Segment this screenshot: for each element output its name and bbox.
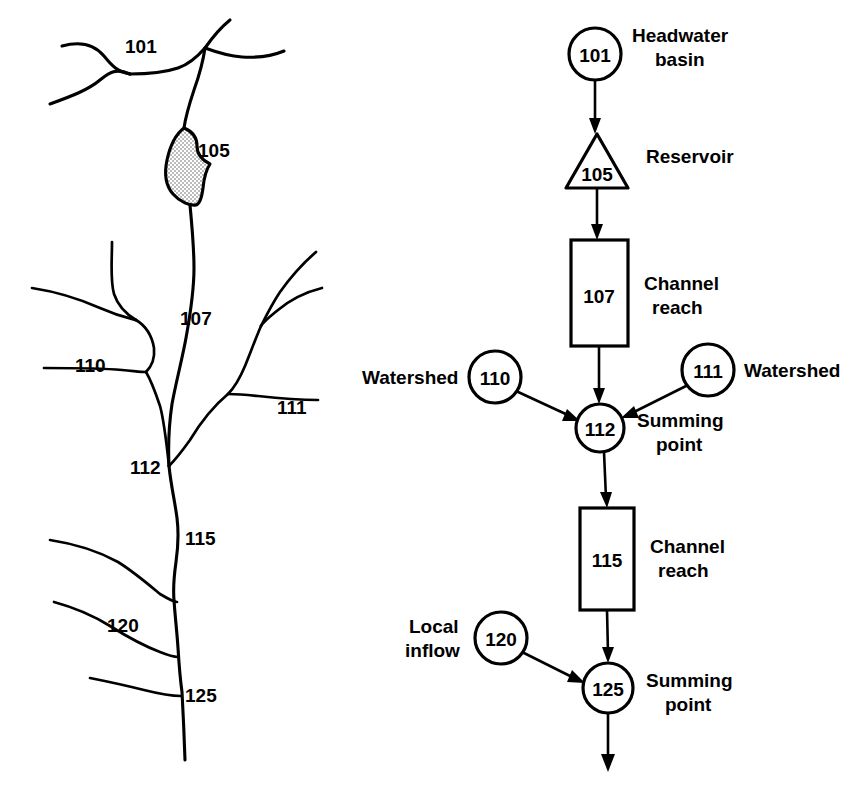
map-reach-label-112: 112 — [130, 457, 161, 478]
map-reach-label-120: 120 — [107, 615, 139, 636]
node-101-number: 101 — [579, 45, 611, 66]
map-reach-label-115: 115 — [185, 528, 216, 549]
node-125-label-line1: Summing — [646, 670, 733, 691]
node-111-label: Watershed — [744, 360, 840, 381]
map-reach-label-111: 111 — [277, 397, 307, 418]
node-101-label-line1: Headwater — [632, 25, 729, 46]
watershed-figure-svg: 101 105 107 110 111 112 115 120 125 — [0, 0, 855, 795]
node-115-number: 115 — [592, 550, 623, 571]
node-120-label-line2: inflow — [405, 640, 460, 661]
node-120-number: 120 — [485, 629, 517, 650]
node-115-label-line1: Channel — [650, 536, 725, 557]
map-reach-label-110: 110 — [75, 355, 106, 376]
node-110-label: Watershed — [362, 367, 458, 388]
map-reach-label-105: 105 — [198, 140, 230, 161]
node-107-label-line1: Channel — [644, 273, 719, 294]
map-reach-label-107: 107 — [180, 308, 212, 329]
node-120-label-line1: Local — [409, 616, 459, 637]
node-101-label-line2: basin — [655, 49, 705, 70]
node-107-label-line2: reach — [652, 297, 703, 318]
map-reach-label-125: 125 — [185, 685, 217, 706]
node-105-label: Reservoir — [646, 146, 734, 167]
node-107-number: 107 — [583, 286, 615, 307]
map-reach-label-101: 101 — [125, 36, 157, 57]
node-112-number: 112 — [585, 419, 616, 440]
node-125-label-line2: point — [665, 694, 712, 715]
node-115-label-line2: reach — [658, 560, 709, 581]
node-110-number: 110 — [480, 368, 511, 389]
figure-canvas: 101 105 107 110 111 112 115 120 125 — [0, 0, 855, 795]
node-111-number: 111 — [693, 361, 723, 382]
node-112-label-line2: point — [656, 434, 703, 455]
node-105-number: 105 — [581, 164, 613, 185]
node-125-number: 125 — [592, 679, 624, 700]
node-112-label-line1: Summing — [637, 410, 724, 431]
